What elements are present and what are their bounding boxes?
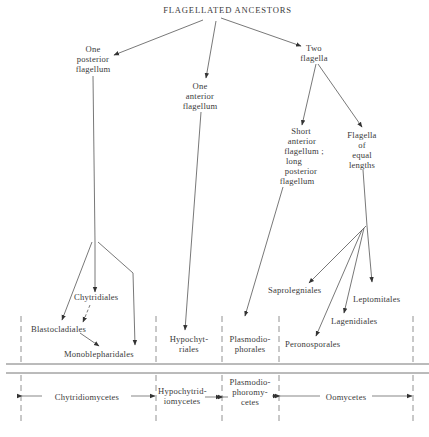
node-short-anterior-long-posterior: Short anterior flagellum ; long posterio… — [270, 126, 330, 186]
order-hypochytriales: Hypochyt- riales — [164, 334, 214, 354]
node-one-anterior-flagellum: One anterior flagellum — [176, 81, 224, 111]
order-lagenidiales: Lagenidiales — [331, 316, 377, 326]
node-flagella-equal-lengths: Flagella of equal lengths — [340, 130, 384, 170]
order-blastocladiales: Blastocladiales — [31, 324, 86, 334]
order-monoblepharidales: Monoblepharidales — [64, 349, 134, 359]
class-oomycetes: Oomycetes — [322, 392, 370, 402]
arrow-to-hypochytriales — [185, 112, 201, 330]
order-leptomitales: Leptomitales — [353, 294, 400, 304]
class-plasmodiophoromycetes: Plasmodio- phoromy- cetes — [224, 377, 276, 407]
title-flagellated-ancestors: FLAGELLATED ANCESTORS — [150, 5, 305, 15]
class-chytridiomycetes: Chytridiomycetes — [45, 392, 129, 402]
figure-caption-cropped — [4, 429, 425, 437]
arrow-blastocladiales-to-monoblepharidales — [80, 333, 99, 346]
order-plasmodiophorales: Plasmodio- phorales — [224, 334, 276, 354]
node-one-posterior-flagellum: One posterior flagellum — [64, 44, 122, 74]
arrow-to-equal-lengths — [318, 64, 362, 127]
node-two-flagella: Two flagella — [294, 43, 334, 63]
order-chytridiales: Chytridiales — [74, 292, 118, 302]
arrow-to-two-flagella — [221, 18, 301, 46]
order-peronosporales: Peronosporales — [285, 339, 340, 349]
arrow-to-one-posterior — [114, 20, 203, 55]
arrow-to-plasmodiophorales — [245, 187, 283, 316]
dashed-arrow-chytridiales-to-blastocladiales — [83, 305, 90, 322]
order-saprolegniales: Saprolegniales — [268, 285, 321, 295]
arrow-to-leptomitales — [367, 226, 372, 282]
arrow-to-one-anterior — [206, 21, 216, 78]
arrow-to-blastocladiales — [62, 242, 92, 320]
class-hypochytridiomycetes: Hypochytrid- iomycetes — [158, 386, 206, 406]
horizontal-separators — [6, 364, 429, 373]
arrow-to-short-anterior — [302, 64, 316, 125]
